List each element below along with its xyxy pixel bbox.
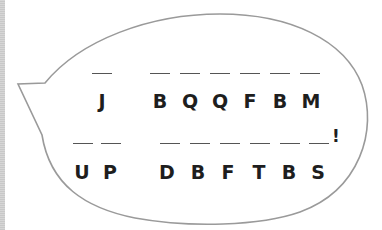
answer-blank[interactable] bbox=[150, 73, 170, 74]
answer-blank[interactable] bbox=[180, 73, 200, 74]
cipher-letter: Q bbox=[209, 91, 231, 111]
cipher-letter: F bbox=[239, 91, 261, 111]
answer-blank[interactable] bbox=[101, 143, 121, 144]
answer-blank[interactable] bbox=[92, 73, 112, 74]
answer-blank[interactable] bbox=[73, 143, 93, 144]
answer-blank[interactable] bbox=[160, 143, 180, 144]
cipher-letter: D bbox=[156, 162, 178, 182]
cipher-letter: J bbox=[91, 91, 113, 111]
cipher-letter: P bbox=[99, 162, 121, 182]
cipher-puzzle: J B Q Q F B M U P D B F T B S ! bbox=[0, 0, 382, 230]
cipher-letter: B bbox=[278, 162, 300, 182]
answer-blank[interactable] bbox=[280, 143, 300, 144]
cipher-letter: B bbox=[187, 162, 209, 182]
exclamation-mark: ! bbox=[332, 127, 340, 145]
cipher-letter: U bbox=[71, 162, 93, 182]
answer-blank[interactable] bbox=[190, 143, 210, 144]
cipher-letter: S bbox=[307, 162, 329, 182]
answer-blank[interactable] bbox=[210, 73, 230, 74]
answer-blank[interactable] bbox=[240, 73, 260, 74]
cipher-letter: B bbox=[149, 91, 171, 111]
cipher-letter: F bbox=[217, 162, 239, 182]
cipher-letter: B bbox=[269, 91, 291, 111]
answer-blank[interactable] bbox=[309, 143, 329, 144]
answer-blank[interactable] bbox=[270, 73, 290, 74]
cipher-letter: Q bbox=[179, 91, 201, 111]
cipher-letter: M bbox=[300, 91, 322, 111]
answer-blank[interactable] bbox=[220, 143, 240, 144]
cipher-letter: T bbox=[248, 162, 270, 182]
answer-blank[interactable] bbox=[300, 73, 320, 74]
answer-blank[interactable] bbox=[250, 143, 270, 144]
